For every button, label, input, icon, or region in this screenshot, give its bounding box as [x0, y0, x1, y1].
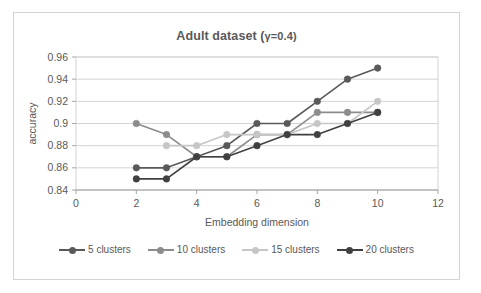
- data-point: [163, 142, 170, 149]
- y-tick-label: 0.92: [48, 95, 69, 107]
- x-axis-label: Embedding dimension: [205, 216, 309, 228]
- data-point: [224, 153, 231, 160]
- data-point: [314, 120, 321, 127]
- data-point: [163, 176, 170, 183]
- x-tick-label: 6: [254, 197, 260, 209]
- data-point: [133, 176, 140, 183]
- data-point: [284, 120, 291, 127]
- data-point: [224, 142, 231, 149]
- chart-legend: 5 clusters 10 clusters 15 clusters 20 cl…: [14, 244, 459, 255]
- data-point: [224, 131, 231, 138]
- legend-label-15-clusters: 15 clusters: [271, 244, 319, 255]
- data-point: [284, 131, 291, 138]
- legend-marker-15-clusters: [252, 247, 259, 254]
- legend-item-10-clusters[interactable]: 10 clusters: [148, 244, 225, 255]
- plot-area: 0.840.860.880.90.920.940.96024681012Embe…: [14, 13, 461, 281]
- data-point: [374, 109, 381, 116]
- y-tick-label: 0.9: [53, 117, 68, 129]
- data-point: [133, 165, 140, 172]
- data-point: [254, 120, 261, 127]
- x-tick-label: 0: [73, 197, 79, 209]
- y-axis-label: accuracy: [26, 102, 38, 145]
- legend-marker-5-clusters: [69, 247, 76, 254]
- data-point: [314, 109, 321, 116]
- y-tick-label: 0.96: [48, 51, 69, 63]
- legend-swatch-15-clusters: [242, 245, 268, 255]
- data-point: [314, 131, 321, 138]
- legend-swatch-20-clusters: [337, 245, 363, 255]
- data-point: [254, 131, 261, 138]
- data-point: [193, 153, 200, 160]
- data-point: [163, 165, 170, 172]
- data-point: [163, 131, 170, 138]
- legend-item-15-clusters[interactable]: 15 clusters: [242, 244, 319, 255]
- y-tick-label: 0.86: [48, 161, 69, 173]
- data-point: [314, 98, 321, 105]
- x-tick-label: 12: [432, 197, 444, 209]
- data-point: [344, 120, 351, 127]
- x-tick-label: 2: [133, 197, 139, 209]
- data-point: [344, 76, 351, 83]
- y-tick-label: 0.84: [48, 184, 69, 196]
- chart-container: Adult dataset (γ=0.4) 0.840.860.880.90.9…: [13, 12, 460, 280]
- legend-item-5-clusters[interactable]: 5 clusters: [59, 244, 131, 255]
- legend-marker-10-clusters: [157, 247, 164, 254]
- data-point: [374, 98, 381, 105]
- legend-item-20-clusters[interactable]: 20 clusters: [337, 244, 414, 255]
- legend-swatch-10-clusters: [148, 245, 174, 255]
- data-point: [254, 142, 261, 149]
- legend-label-5-clusters: 5 clusters: [88, 244, 131, 255]
- data-point: [193, 142, 200, 149]
- x-tick-label: 10: [372, 197, 384, 209]
- data-point: [374, 65, 381, 72]
- data-point: [344, 109, 351, 116]
- legend-label-20-clusters: 20 clusters: [366, 244, 414, 255]
- y-tick-label: 0.88: [48, 139, 69, 151]
- legend-marker-20-clusters: [346, 247, 353, 254]
- y-tick-label: 0.94: [48, 73, 69, 85]
- x-tick-label: 8: [314, 197, 320, 209]
- x-tick-label: 4: [194, 197, 200, 209]
- data-point: [133, 120, 140, 127]
- legend-label-10-clusters: 10 clusters: [177, 244, 225, 255]
- legend-swatch-5-clusters: [59, 245, 85, 255]
- series-line-0: [136, 68, 377, 168]
